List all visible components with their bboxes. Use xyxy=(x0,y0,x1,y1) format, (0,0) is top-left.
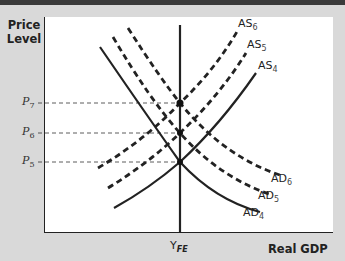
equilibrium-p7 xyxy=(177,100,184,107)
ad5-curve xyxy=(113,37,272,195)
ad6-label: AD6 xyxy=(271,172,292,187)
p6-label: P6 xyxy=(22,125,35,140)
equilibrium-p6 xyxy=(177,130,183,136)
as6-curve xyxy=(98,30,238,168)
as4-label: AS4 xyxy=(258,59,278,74)
x-axis-label: Real GDP xyxy=(268,242,328,256)
diagram-svg xyxy=(0,0,345,261)
ad5-label: AD5 xyxy=(258,189,279,204)
equilibrium-p5 xyxy=(177,159,183,165)
as6-label: AS6 xyxy=(238,17,258,32)
p7-label: P7 xyxy=(22,95,35,110)
p5-label: P5 xyxy=(22,154,35,169)
ad4-label: AD4 xyxy=(243,206,264,221)
y-axis xyxy=(44,17,45,233)
x-axis xyxy=(44,232,333,233)
as5-label: AS5 xyxy=(247,38,267,53)
as5-curve xyxy=(108,53,246,188)
yfe-tick-label: YFE xyxy=(170,239,188,254)
